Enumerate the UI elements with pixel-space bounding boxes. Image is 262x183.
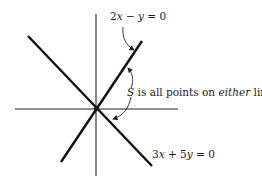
arrow-S-to-line2 (113, 97, 131, 119)
arrow-S-to-line1 (128, 68, 133, 88)
origin-point (94, 107, 98, 111)
arrow-to-line1 (123, 27, 134, 50)
label-equation-1: 2x − y = 0 (110, 10, 166, 22)
label-equation-2: 3x + 5y = 0 (152, 148, 215, 160)
label-set-description: S is all points on either line (127, 86, 262, 98)
diagram-canvas: 2x − y = 0 S is all points on either lin… (0, 0, 262, 183)
